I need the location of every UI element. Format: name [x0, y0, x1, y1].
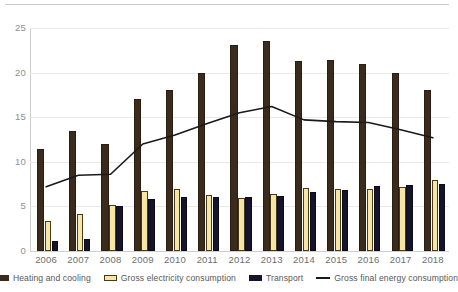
x-axis-tick-label: 2013 — [256, 254, 288, 265]
legend-item[interactable]: Gross final energy consumption — [316, 273, 458, 283]
x-axis-tick-label: 2012 — [223, 254, 255, 265]
bar-brown — [198, 73, 205, 251]
bar-group — [385, 28, 417, 251]
x-axis-tick-label: 2017 — [385, 254, 417, 265]
bar-yellow — [270, 194, 276, 251]
legend-label: Gross final energy consumption — [334, 273, 458, 283]
legend-item[interactable]: Transport — [249, 273, 303, 283]
legend-swatch-navy — [249, 275, 262, 281]
bar-navy — [181, 197, 187, 251]
bar-group — [30, 28, 62, 251]
x-axis-tick-label: 2009 — [127, 254, 159, 265]
bar-brown — [69, 131, 76, 251]
bar-group — [288, 28, 320, 251]
bar-yellow — [432, 180, 438, 251]
legend-item[interactable]: Gross electricity consumption — [104, 273, 236, 283]
bar-yellow — [109, 205, 115, 251]
y-axis-tick-label: 25 — [2, 22, 26, 33]
x-axis-tick-label: 2008 — [94, 254, 126, 265]
bar-navy — [439, 184, 445, 251]
y-axis-tick-label: 10 — [2, 156, 26, 167]
bar-navy — [84, 239, 90, 251]
y-axis-tick-label: 20 — [2, 67, 26, 78]
bar-navy — [245, 197, 251, 251]
bar-group — [127, 28, 159, 251]
y-axis-tick-label: 0 — [2, 245, 26, 256]
x-axis-labels: 2006200720082009201020112012201320142015… — [30, 254, 449, 270]
x-axis-tick-label: 2011 — [191, 254, 223, 265]
bar-brown — [166, 90, 173, 251]
legend-label: Transport — [266, 273, 303, 283]
x-axis-tick-label: 2015 — [320, 254, 352, 265]
bar-yellow — [303, 188, 309, 251]
bar-brown — [37, 149, 44, 251]
bar-navy — [148, 199, 154, 251]
chart-legend: Heating and coolingGross electricity con… — [0, 271, 454, 285]
bar-navy — [52, 241, 58, 251]
bar-brown — [295, 61, 302, 251]
y-axis-labels: 0510152025 — [0, 0, 26, 292]
bar-yellow — [399, 187, 405, 251]
top-divider — [5, 4, 449, 5]
bar-navy — [310, 192, 316, 251]
bar-brown — [263, 41, 270, 252]
x-axis-tick-label: 2014 — [288, 254, 320, 265]
bar-group — [417, 28, 449, 251]
bar-brown — [392, 73, 399, 251]
bar-yellow — [335, 189, 341, 251]
legend-label: Heating and cooling — [13, 273, 91, 283]
x-axis-tick-label: 2018 — [417, 254, 449, 265]
legend-item[interactable]: Heating and cooling — [0, 273, 91, 283]
x-axis-tick-label: 2010 — [159, 254, 191, 265]
y-axis-tick-label: 15 — [2, 111, 26, 122]
x-axis-tick-label: 2007 — [62, 254, 94, 265]
legend-label: Gross electricity consumption — [121, 273, 236, 283]
bar-group — [320, 28, 352, 251]
bar-yellow — [77, 214, 83, 251]
bar-brown — [424, 90, 431, 251]
bar-brown — [230, 45, 237, 251]
plot-area — [30, 28, 449, 251]
legend-swatch-line — [316, 277, 330, 279]
x-axis-line — [30, 251, 449, 252]
bar-group — [256, 28, 288, 251]
bar-navy — [116, 206, 122, 251]
y-axis-tick-label: 5 — [2, 200, 26, 211]
bar-yellow — [206, 195, 212, 251]
legend-swatch-yellow — [104, 275, 117, 281]
bar-yellow — [367, 189, 373, 251]
x-axis-tick-label: 2016 — [352, 254, 384, 265]
bar-group — [352, 28, 384, 251]
bar-navy — [213, 197, 219, 251]
bar-group — [159, 28, 191, 251]
bar-navy — [277, 196, 283, 251]
bar-navy — [374, 186, 380, 251]
bar-group — [191, 28, 223, 251]
bar-brown — [134, 99, 141, 251]
bar-group — [94, 28, 126, 251]
bar-brown — [359, 64, 366, 251]
bar-navy — [342, 190, 348, 251]
bar-navy — [406, 185, 412, 251]
bar-group — [223, 28, 255, 251]
bar-group — [62, 28, 94, 251]
bar-brown — [101, 144, 108, 251]
bar-yellow — [45, 221, 51, 251]
bar-yellow — [238, 198, 244, 251]
legend-swatch-brown — [0, 275, 9, 281]
bar-brown — [327, 60, 334, 251]
bar-yellow — [174, 189, 180, 251]
x-axis-tick-label: 2006 — [30, 254, 62, 265]
bar-yellow — [141, 191, 147, 251]
